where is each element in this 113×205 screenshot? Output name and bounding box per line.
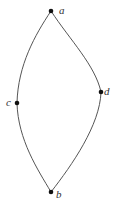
label-c: c [6,96,11,108]
node-c [15,101,20,106]
edge-a-c [17,11,51,103]
node-b [49,190,54,195]
node-a [49,9,54,14]
edge-d-b [51,92,101,192]
node-d [99,90,104,95]
label-b: b [56,188,62,200]
label-d: d [104,85,110,97]
edge-c-b [17,103,51,192]
label-a: a [59,4,65,16]
graph-diagram: a c d b [0,0,113,205]
edge-a-d [51,11,101,92]
